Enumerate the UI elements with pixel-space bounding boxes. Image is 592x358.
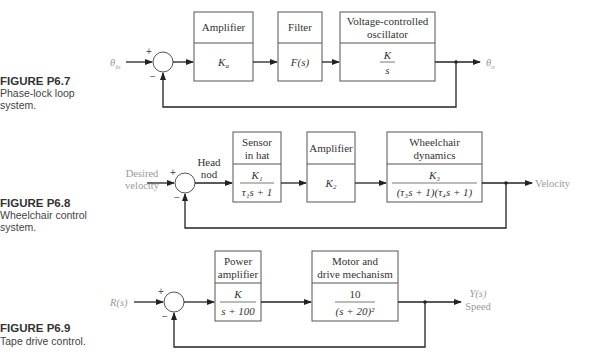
tf-denominator: τ₁s + 1 [242,186,272,198]
block-diagrams-canvas: FIGURE P6.7 Phase-lock loop system. θin … [0,0,592,358]
plus-sign: + [158,286,164,297]
output-signal-label: Y(s) [470,288,487,300]
tf-numerator: K₃ [428,169,440,181]
svg-text:Voltage-controlled: Voltage-controlled [347,15,429,27]
tf-denominator: s + 100 [221,305,255,317]
tf-denominator: (τ₃s + 1)(τ₄s + 1) [397,186,473,199]
caption-line: system. [0,221,36,233]
tf-numerator: K₁ [250,169,262,181]
svg-text:Sensor: Sensor [242,136,272,148]
input-signal-label: velocity [125,180,160,191]
tf-numerator: K [233,288,242,300]
summing-junction [153,52,173,72]
plus-sign: + [146,46,152,57]
block-amplifier: Amplifier K₂ [307,132,355,202]
block-amplifier: Amplifier Ka [194,12,253,81]
figure-p6-8: FIGURE P6.8 Wheelchair control system. D… [0,132,571,233]
minus-sign: − [162,311,168,322]
svg-text:Amplifier: Amplifier [309,142,353,154]
figure-caption: FIGURE P6.9 Tape drive control. [0,322,86,347]
input-signal-label: θin [110,57,121,71]
caption-line: system. [0,99,36,111]
output-signal-label: Speed [465,301,491,312]
output-signal-label: Velocity [535,178,571,189]
block-power-amplifier: Power amplifier K s + 100 [215,251,261,321]
svg-text:Amplifier: Amplifier [202,21,246,33]
summing-junction [175,173,195,193]
minus-sign: − [174,192,180,203]
svg-text:amplifier: amplifier [218,268,259,280]
svg-text:Power: Power [224,255,252,267]
summing-junction [164,292,184,312]
block-wheelchair-dynamics: Wheelchair dynamics K₃ (τ₃s + 1)(τ₄s + 1… [387,132,482,202]
tf-numerator: 10 [350,288,362,300]
svg-text:in hat: in hat [245,149,270,161]
svg-text:Filter: Filter [288,21,312,33]
output-signal-label: θo [486,57,495,71]
transfer-function: K₂ [324,177,336,189]
signal-label-head-nod: Head [197,156,221,168]
caption-line: Wheelchair control [0,209,87,221]
caption-line: Phase-lock loop [0,87,75,99]
tf-denominator: (s + 20)² [336,305,376,318]
input-signal-label: Desired [126,168,159,179]
minus-sign: − [150,71,156,82]
block-filter: Filter F(s) [278,12,322,81]
figure-title: FIGURE P6.9 [0,322,70,334]
figure-caption: FIGURE P6.8 Wheelchair control system. [0,197,87,233]
figure-p6-9: FIGURE P6.9 Tape drive control. R(s) + −… [0,251,492,347]
figure-title: FIGURE P6.7 [0,75,70,87]
svg-text:drive mechanism: drive mechanism [317,268,393,280]
caption-line: Tape drive control. [0,335,86,347]
transfer-function: F(s) [290,56,310,69]
svg-text:Wheelchair: Wheelchair [409,136,460,148]
svg-text:Motor and: Motor and [332,255,379,267]
block-sensor-in-hat: Sensor in hat K₁ τ₁s + 1 [233,132,281,202]
signal-label-head-nod: nod [201,168,218,180]
svg-text:oscillator: oscillator [367,28,408,40]
svg-text:dynamics: dynamics [413,149,455,161]
tf-denominator: s [385,64,389,76]
block-motor-and-drive-mechanism: Motor and drive mechanism 10 (s + 20)² [312,251,398,321]
tf-numerator: K [383,49,392,61]
figure-title: FIGURE P6.8 [0,197,71,209]
figure-p6-7: FIGURE P6.7 Phase-lock loop system. θin … [0,12,495,111]
input-signal-label: R(s) [109,297,128,309]
plus-sign: + [170,167,176,178]
figure-caption: FIGURE P6.7 Phase-lock loop system. [0,75,75,111]
block-voltage-controlled-oscillator: Voltage-controlled oscillator K s [340,12,435,81]
